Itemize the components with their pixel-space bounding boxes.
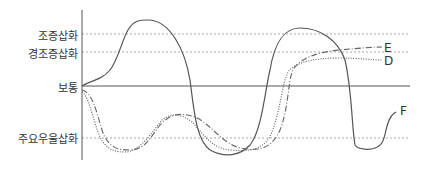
series-f-line bbox=[82, 20, 396, 155]
mood-chart: E D F bbox=[0, 0, 423, 172]
series-e-line bbox=[82, 47, 382, 150]
series-d-label: D bbox=[384, 54, 393, 68]
series-e-label: E bbox=[384, 41, 392, 55]
series-f-label: F bbox=[400, 104, 407, 118]
